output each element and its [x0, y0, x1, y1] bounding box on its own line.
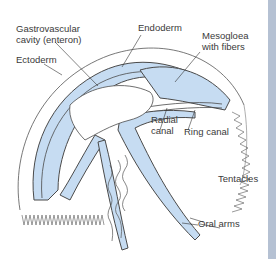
label-tentacles: Tentacles [218, 173, 258, 184]
oral-arm-frill-3 [123, 155, 128, 211]
tentacle-fringe-bottom [22, 215, 104, 225]
label-gastrovascular: Gastrovascular cavity (enteron) [16, 23, 81, 45]
label-radial-canal: Radial canal [151, 114, 178, 136]
side-bar [268, 0, 276, 259]
label-oral-arms: Oral arms [198, 218, 240, 229]
label-mesogloea-line1: Mesogloea [202, 30, 248, 41]
label-gastrovascular-line1: Gastrovascular [16, 23, 81, 34]
label-endoderm: Endoderm [138, 22, 182, 33]
label-gastrovascular-line2: cavity (enteron) [16, 34, 81, 45]
label-ring-canal: Ring canal [184, 126, 229, 137]
label-radial-line1: Radial [151, 114, 178, 125]
label-ectoderm: Ectoderm [16, 54, 57, 65]
label-radial-line2: canal [151, 125, 178, 136]
tentacle-fringe-right [232, 112, 250, 212]
label-mesogloea-line2: with fibers [202, 41, 248, 52]
label-mesogloea: Mesogloea with fibers [202, 30, 248, 52]
